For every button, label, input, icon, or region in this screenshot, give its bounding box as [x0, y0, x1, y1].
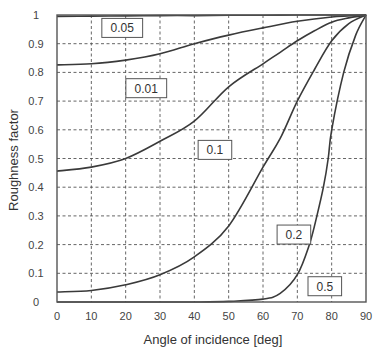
curve-label-0-5: 0.5: [308, 277, 342, 296]
y-tick-label: 0.5: [28, 153, 43, 165]
y-tick-label: 0.4: [28, 181, 43, 193]
x-axis-label: Angle of incidence [deg]: [144, 332, 283, 347]
x-tick-label: 70: [291, 310, 303, 322]
x-tick-label: 60: [257, 310, 269, 322]
x-tick-label: 40: [188, 310, 200, 322]
roughness-factor-chart: 0.050.010.10.20.5 0102030405060708090 00…: [0, 0, 386, 361]
curve-label-0-1: 0.1: [198, 140, 232, 159]
y-tick-label: 0.1: [28, 267, 43, 279]
y-tick-label: 0.9: [28, 38, 43, 50]
svg-text:0.05: 0.05: [111, 21, 135, 35]
y-tick-label: 0.8: [28, 66, 43, 78]
svg-text:0.2: 0.2: [286, 228, 303, 242]
x-tick-label: 20: [120, 310, 132, 322]
x-tick-label: 50: [223, 310, 235, 322]
y-tick-label: 0.7: [28, 95, 43, 107]
y-tick-label: 0.2: [28, 239, 43, 251]
svg-text:0.1: 0.1: [207, 143, 224, 157]
y-axis-ticks: 00.10.20.30.40.50.60.70.80.91: [28, 9, 43, 308]
y-axis-label: Roughness factor: [6, 108, 21, 211]
svg-text:0.01: 0.01: [135, 82, 159, 96]
y-tick-label: 0: [33, 296, 39, 308]
x-tick-label: 0: [54, 310, 60, 322]
curve-label-0-05: 0.05: [102, 18, 143, 37]
x-axis-ticks: 0102030405060708090: [54, 310, 372, 322]
curve-label-0-2: 0.2: [277, 225, 311, 244]
y-tick-label: 1: [33, 9, 39, 21]
x-tick-label: 90: [360, 310, 372, 322]
x-tick-label: 10: [85, 310, 97, 322]
svg-text:0.5: 0.5: [316, 280, 333, 294]
y-tick-label: 0.6: [28, 124, 43, 136]
curve-label-0-01: 0.01: [126, 79, 167, 98]
y-tick-label: 0.3: [28, 210, 43, 222]
x-tick-label: 30: [154, 310, 166, 322]
x-tick-label: 80: [326, 310, 338, 322]
